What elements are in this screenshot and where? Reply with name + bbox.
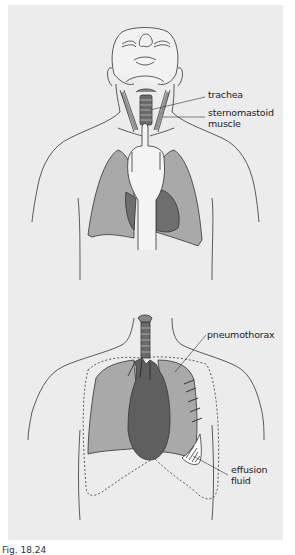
trachea-label: trachea — [208, 90, 243, 101]
top-figure — [32, 28, 259, 281]
effusion-label-line2: fluid — [231, 476, 267, 487]
sternomastoid-label-line1: sternomastoid — [208, 108, 274, 119]
effusion-fluid-label: effusion fluid — [231, 465, 267, 486]
effusion-label-line1: effusion — [231, 465, 267, 476]
figure-caption: Fig. 18.24 — [2, 545, 46, 555]
sternomastoid-label: sternomastoid muscle — [208, 108, 274, 129]
sternomastoid-label-line2: muscle — [208, 119, 274, 130]
pneumothorax-label: pneumothorax — [207, 330, 275, 341]
bottom-figure — [28, 315, 264, 520]
